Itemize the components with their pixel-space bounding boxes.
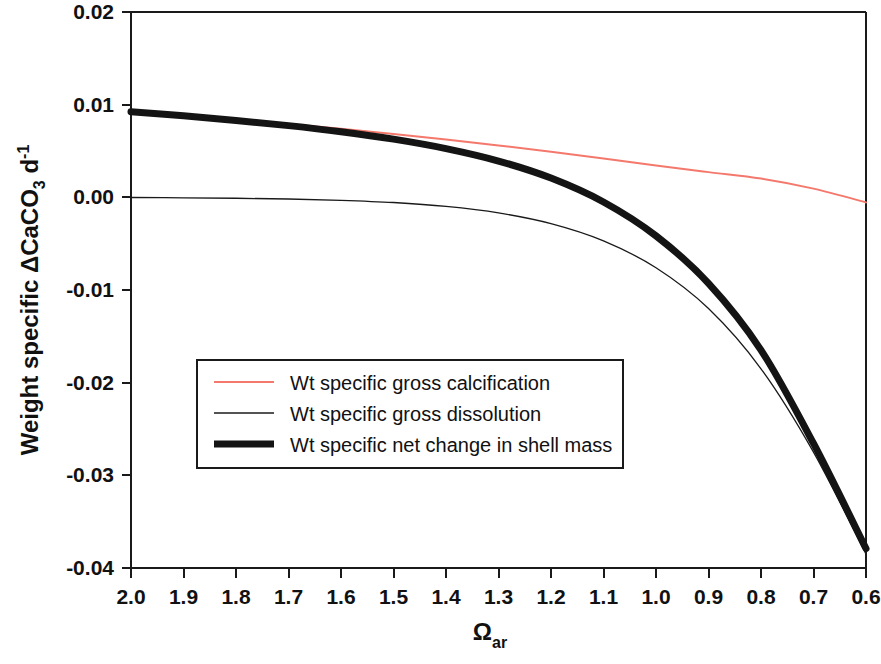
x-tick-label: 1.7 xyxy=(274,585,303,608)
chart-svg: 0.020.010.00-0.01-0.02-0.03-0.04 2.01.91… xyxy=(0,0,881,664)
x-tick-label: 0.7 xyxy=(799,585,828,608)
x-axis-title-subscript: ar xyxy=(492,634,507,651)
x-tick-label: 1.6 xyxy=(326,585,355,608)
y-axis-title-superscript: -1 xyxy=(15,145,32,159)
x-tick-label: 1.4 xyxy=(431,585,461,608)
x-tick-label: 2.0 xyxy=(116,585,145,608)
x-tick-label: 0.8 xyxy=(746,585,776,608)
x-tick-label: 1.0 xyxy=(641,585,670,608)
y-axis-title-subscript: 3 xyxy=(31,180,48,189)
legend-label-0: Wt specific gross calcification xyxy=(290,372,550,394)
y-tick-label: -0.01 xyxy=(66,278,114,301)
x-axis-title-main: Ω xyxy=(473,618,492,645)
x-tick-label: 0.9 xyxy=(694,585,723,608)
y-axis-title-tail: d xyxy=(16,159,43,180)
x-tick-label: 1.1 xyxy=(589,585,619,608)
chart-figure: 0.020.010.00-0.01-0.02-0.03-0.04 2.01.91… xyxy=(0,0,881,664)
x-tick-label: 1.2 xyxy=(536,585,565,608)
x-tick-label: 1.5 xyxy=(379,585,409,608)
chart-legend: Wt specific gross calcificationWt specif… xyxy=(197,360,623,468)
x-tick-label: 0.6 xyxy=(851,585,880,608)
x-tick-label: 1.8 xyxy=(221,585,251,608)
x-tick-label: 1.3 xyxy=(484,585,513,608)
y-axis-title-main: Weight specific ΔCaCO xyxy=(16,189,43,455)
x-tick-label: 1.9 xyxy=(169,585,198,608)
y-tick-label: 0.00 xyxy=(73,185,114,208)
y-tick-label: 0.02 xyxy=(73,0,114,23)
y-tick-label: 0.01 xyxy=(73,93,114,116)
legend-label-2: Wt specific net change in shell mass xyxy=(290,434,612,456)
legend-label-1: Wt specific gross dissolution xyxy=(290,403,541,425)
y-tick-label: -0.02 xyxy=(66,371,114,394)
y-tick-label: -0.03 xyxy=(66,463,114,486)
y-tick-label: -0.04 xyxy=(66,556,114,579)
x-axis-tick-labels: 2.01.91.81.71.61.51.41.31.21.11.00.90.80… xyxy=(116,585,880,608)
